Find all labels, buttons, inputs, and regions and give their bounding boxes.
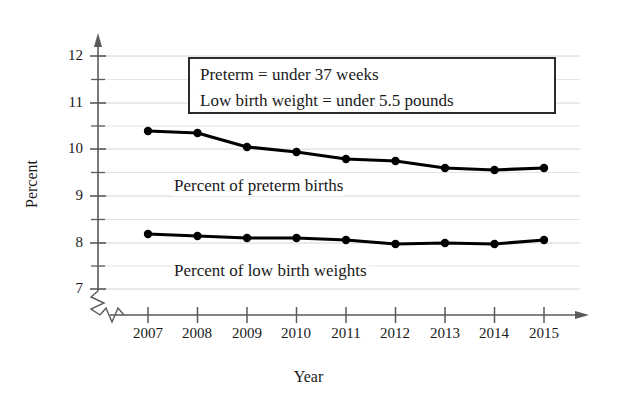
note-line-low-birth-weight: Low birth weight = under 5.5 pounds: [200, 88, 544, 114]
x-tick-label-2015: 2015: [514, 325, 574, 342]
y-tick-label-8: 8: [50, 234, 83, 251]
note-line-preterm: Preterm = under 37 weeks: [200, 62, 544, 88]
y-tick-label-9: 9: [50, 187, 83, 204]
definition-note-box: Preterm = under 37 weeks Low birth weigh…: [188, 57, 556, 114]
y-axis-title: Percent: [23, 134, 41, 234]
series-line-preterm: [148, 131, 544, 170]
y-tick-label-10: 10: [50, 140, 83, 157]
x-axis-title: Year: [0, 368, 617, 386]
y-axis-arrow: [94, 33, 102, 47]
x-axis-arrow: [575, 311, 589, 319]
y-tick-label-7: 7: [50, 280, 83, 297]
y-axis-break-icon: [91, 291, 104, 315]
series-label-low-birth-weight: Percent of low birth weights: [172, 261, 369, 281]
series-label-preterm: Percent of preterm births: [172, 176, 345, 196]
y-tick-label-11: 11: [50, 94, 83, 111]
y-tick-label-12: 12: [50, 47, 83, 64]
chart-container: 12 11 10 9 8 7 2007 2008 2009 2010 2011 …: [0, 0, 617, 410]
